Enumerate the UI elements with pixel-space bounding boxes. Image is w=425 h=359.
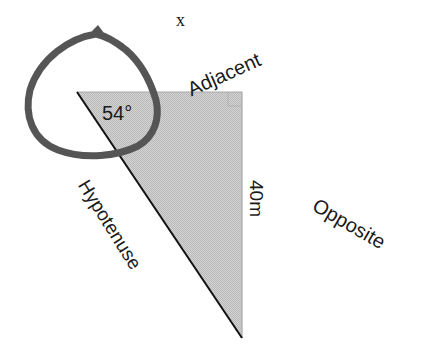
diagram-canvas	[0, 0, 425, 359]
angle-label: 54°	[102, 102, 132, 125]
unknown-variable-label: x	[176, 10, 185, 31]
side-length-label: 40m	[245, 180, 267, 217]
trigonometry-diagram: x Adjacent 54° 40m Opposite Hypotenuse	[0, 0, 425, 359]
